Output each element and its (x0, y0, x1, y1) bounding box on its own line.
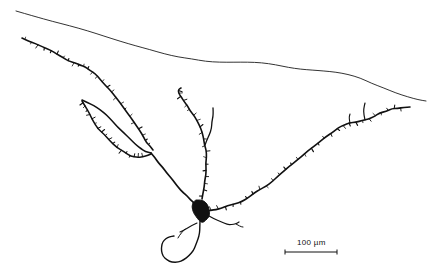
dendritic-spine (129, 156, 130, 158)
dendritic-spine (68, 59, 69, 61)
neuron-tracing-canvas (0, 0, 442, 277)
dendritic-spine (205, 183, 208, 184)
dendritic-spine (394, 105, 395, 108)
figure-background (0, 0, 442, 277)
dendritic-spine (291, 163, 292, 165)
scale-bar-label: 100 µm (297, 238, 326, 247)
neuron-figure-root: 100 µm (0, 0, 442, 277)
dendritic-spine (401, 108, 402, 111)
